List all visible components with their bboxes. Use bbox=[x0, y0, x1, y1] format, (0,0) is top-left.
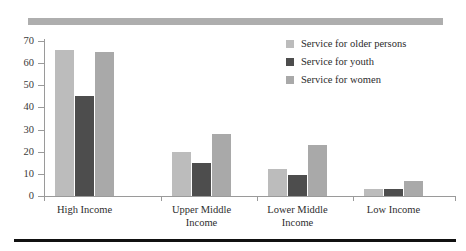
bar bbox=[364, 189, 383, 196]
legend-item: Service for women bbox=[286, 72, 462, 88]
x-axis-category-label: Upper Middle Income bbox=[152, 203, 252, 229]
chart-legend: Service for older personsService for you… bbox=[286, 36, 462, 90]
bar bbox=[172, 152, 191, 196]
bar-group bbox=[172, 41, 231, 196]
legend-swatch-icon bbox=[286, 76, 294, 84]
bottom-divider-rule bbox=[14, 239, 456, 242]
x-axis-category-label: Lower Middle Income bbox=[248, 203, 348, 229]
legend-label: Service for youth bbox=[301, 57, 374, 68]
legend-item: Service for youth bbox=[286, 54, 462, 70]
bar bbox=[384, 189, 403, 196]
bar-group bbox=[55, 41, 114, 196]
bar bbox=[212, 134, 231, 196]
legend-item: Service for older persons bbox=[286, 36, 462, 52]
bar bbox=[404, 181, 423, 197]
x-axis-category-label: High Income bbox=[35, 203, 135, 216]
legend-label: Service for older persons bbox=[301, 39, 406, 50]
bar bbox=[95, 52, 114, 196]
bar bbox=[192, 163, 211, 196]
legend-label: Service for women bbox=[301, 75, 381, 86]
bar bbox=[308, 145, 327, 196]
bar bbox=[75, 96, 94, 196]
bar bbox=[288, 175, 307, 196]
chart-figure: 010203040506070 High IncomeUpper Middle … bbox=[0, 0, 466, 251]
legend-swatch-icon bbox=[286, 58, 294, 66]
bar bbox=[55, 50, 74, 196]
legend-swatch-icon bbox=[286, 40, 294, 48]
x-axis-category-label: Low Income bbox=[344, 203, 444, 216]
top-divider-band bbox=[28, 18, 443, 25]
bar bbox=[268, 169, 287, 196]
